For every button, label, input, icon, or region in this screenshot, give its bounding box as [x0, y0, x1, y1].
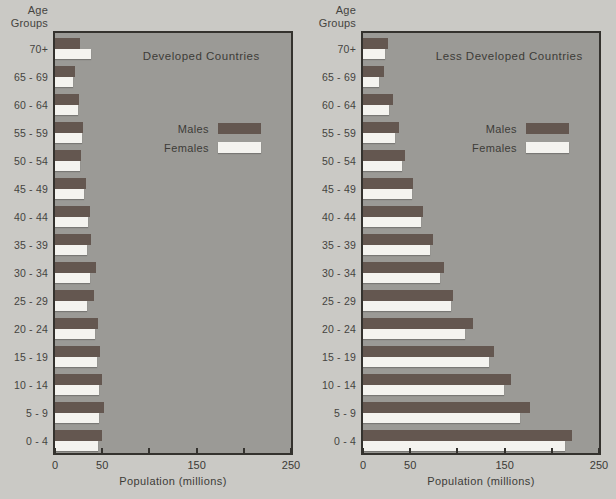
female-bar	[55, 413, 99, 424]
axis-tick	[101, 448, 103, 453]
age-group-label: 40 - 44	[310, 211, 356, 223]
male-bar	[363, 94, 393, 105]
age-group-label: 30 - 34	[2, 267, 48, 279]
axis-tick	[290, 448, 292, 453]
age-group-label: 70+	[2, 43, 48, 55]
axis-tick	[456, 448, 458, 453]
age-group-label: 15 - 19	[310, 351, 356, 363]
plot-area: Developed Countries Males Females	[53, 31, 293, 455]
male-bar	[363, 290, 453, 301]
male-bar	[363, 206, 423, 217]
female-bar	[55, 49, 91, 60]
age-group-label: 50 - 54	[2, 155, 48, 167]
age-group-label: 55 - 59	[2, 127, 48, 139]
age-group-label: 25 - 29	[310, 295, 356, 307]
age-group-label: 70+	[310, 43, 356, 55]
female-bar	[363, 329, 465, 340]
female-bar	[55, 105, 78, 116]
age-group-label: 0 - 4	[310, 435, 356, 447]
y-axis-header-line1: Age	[310, 4, 356, 17]
male-bar	[363, 346, 494, 357]
age-group-label: 5 - 9	[310, 407, 356, 419]
axis-tick	[243, 448, 245, 453]
male-bar	[55, 290, 94, 301]
y-axis-header-line2: Groups	[310, 17, 356, 30]
male-bar	[55, 150, 81, 161]
male-bar	[363, 66, 384, 77]
male-bar	[55, 346, 100, 357]
male-bar	[363, 318, 473, 329]
female-bar	[363, 161, 402, 172]
age-group-label: 10 - 14	[2, 379, 48, 391]
plot-area: Less Developed Countries Males Females	[361, 31, 601, 455]
y-axis-header-line2: Groups	[2, 17, 48, 30]
axis-tick-label: 50	[96, 459, 108, 471]
female-bar	[363, 105, 389, 116]
less-developed-countries-chart: Age Groups 70+65 - 6960 - 6455 - 5950 - …	[310, 0, 616, 499]
axis-tick-label: 250	[590, 459, 608, 471]
age-group-label: 20 - 24	[2, 323, 48, 335]
female-bar	[363, 413, 520, 424]
x-axis-title: Population (millions)	[361, 475, 601, 487]
age-group-label: 45 - 49	[310, 183, 356, 195]
age-group-label: 5 - 9	[2, 407, 48, 419]
age-group-label: 0 - 4	[2, 435, 48, 447]
female-bar	[55, 245, 87, 256]
female-bar	[363, 189, 412, 200]
age-group-label: 50 - 54	[310, 155, 356, 167]
axis-tick	[551, 448, 553, 453]
age-group-label: 20 - 24	[310, 323, 356, 335]
female-bar	[55, 301, 87, 312]
age-group-label: 65 - 69	[310, 71, 356, 83]
female-bar	[363, 273, 440, 284]
axis-tick	[196, 448, 198, 453]
age-group-label: 65 - 69	[2, 71, 48, 83]
female-bar	[55, 77, 73, 88]
male-bar	[363, 430, 572, 441]
age-group-label: 45 - 49	[2, 183, 48, 195]
female-bar	[55, 217, 88, 228]
age-group-label: 25 - 29	[2, 295, 48, 307]
chart-title: Developed Countries	[143, 50, 260, 62]
age-group-label: 35 - 39	[310, 239, 356, 251]
male-bar	[363, 122, 399, 133]
age-group-label: 35 - 39	[2, 239, 48, 251]
female-bar	[363, 49, 385, 60]
developed-countries-chart: Age Groups 70+65 - 6960 - 6455 - 5950 - …	[2, 0, 308, 499]
female-bar	[55, 357, 97, 368]
male-bar	[55, 318, 98, 329]
axis-tick-label: 150	[495, 459, 513, 471]
age-group-label: 60 - 64	[310, 99, 356, 111]
axis-tick	[409, 448, 411, 453]
legend-males-swatch	[526, 123, 569, 134]
male-bar	[55, 206, 90, 217]
axis-tick	[148, 448, 150, 453]
age-group-label: 10 - 14	[310, 379, 356, 391]
female-bar	[55, 189, 84, 200]
female-bar	[363, 357, 489, 368]
age-group-label: 15 - 19	[2, 351, 48, 363]
axis-tick-label: 0	[360, 459, 366, 471]
axis-tick	[504, 448, 506, 453]
axis-tick-label: 250	[282, 459, 300, 471]
male-bar	[55, 402, 104, 413]
y-axis-header: Age Groups	[2, 4, 48, 30]
male-bar	[55, 94, 79, 105]
axis-tick	[54, 448, 56, 453]
female-bar	[55, 133, 82, 144]
age-group-label: 55 - 59	[310, 127, 356, 139]
axis-tick-label: 50	[404, 459, 416, 471]
female-bar	[363, 245, 430, 256]
female-bar	[55, 161, 80, 172]
male-bar	[55, 122, 83, 133]
male-bar	[55, 178, 86, 189]
female-bar	[363, 385, 504, 396]
male-bar	[55, 234, 91, 245]
male-bar	[55, 430, 102, 441]
y-axis-header-line1: Age	[2, 4, 48, 17]
axis-tick	[362, 448, 364, 453]
female-bar	[363, 441, 565, 452]
age-group-label: 30 - 34	[310, 267, 356, 279]
female-bar	[363, 77, 379, 88]
male-bar	[363, 178, 413, 189]
